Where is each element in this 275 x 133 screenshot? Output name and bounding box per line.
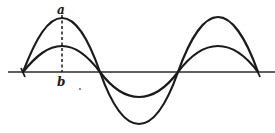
label-b: b — [57, 75, 65, 89]
large-amplitude-wave — [23, 17, 258, 124]
stray-dot — [79, 88, 81, 90]
label-a: a — [57, 3, 65, 17]
sine-wave-diagram: a b — [0, 0, 275, 133]
